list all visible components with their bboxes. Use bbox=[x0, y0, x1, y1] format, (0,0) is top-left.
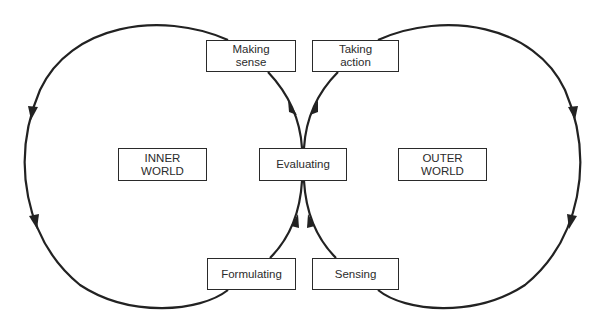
node-evaluating: Evaluating bbox=[259, 148, 347, 181]
node-label: INNER WORLD bbox=[141, 152, 184, 178]
node-making-sense: Making sense bbox=[206, 40, 296, 72]
node-formulating: Formulating bbox=[207, 258, 296, 290]
arrow-down-icon bbox=[568, 106, 578, 120]
node-label: Taking action bbox=[339, 43, 372, 69]
node-outer-world: OUTER WORLD bbox=[398, 148, 487, 181]
evaluating-to-making-sense bbox=[268, 72, 302, 148]
evaluating-to-taking-action bbox=[304, 72, 338, 148]
node-label: Formulating bbox=[221, 268, 282, 281]
node-label: Evaluating bbox=[276, 158, 330, 171]
node-sensing: Sensing bbox=[312, 258, 399, 290]
node-label: Sensing bbox=[335, 268, 377, 281]
node-taking-action: Taking action bbox=[312, 40, 399, 72]
node-inner-world: INNER WORLD bbox=[118, 148, 207, 181]
node-label: OUTER WORLD bbox=[421, 152, 464, 178]
node-label: Making sense bbox=[232, 43, 269, 69]
